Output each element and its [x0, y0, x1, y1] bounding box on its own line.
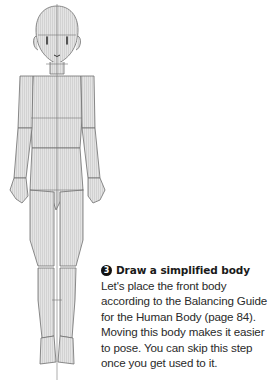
description-line: Let's place the front body [101, 278, 271, 293]
step-description: Let's place the front body according to … [101, 278, 271, 370]
step-3-instructions: 3 Draw a simplified body Let's place the… [101, 263, 271, 370]
description-line: for the Human Body (page 84). [101, 309, 271, 324]
description-line: to pose. You can skip this step [101, 340, 271, 355]
step-heading: 3 Draw a simplified body [101, 263, 271, 277]
description-line: Moving this body makes it easier [101, 324, 271, 339]
step-title: Draw a simplified body [116, 264, 250, 276]
step-number-badge: 3 [101, 265, 112, 276]
description-line: according to the Balancing Guide [101, 293, 271, 308]
description-line: once you get used to it. [101, 355, 271, 370]
